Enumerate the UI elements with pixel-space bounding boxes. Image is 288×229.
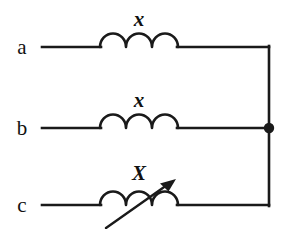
variable-inductor-c-coil (100, 192, 178, 206)
circuit-canvas: a b c x x X (0, 0, 288, 229)
inductor-b (100, 115, 178, 129)
terminal-label-c: c (17, 193, 26, 217)
bus-junction-dot (264, 123, 274, 133)
terminal-label-b: b (17, 116, 28, 140)
circuit-diagram-figure: a b c x x X (0, 0, 288, 229)
inductor-a-coil (100, 34, 178, 48)
inductor-b-label: x (133, 88, 145, 112)
inductor-b-coil (100, 115, 178, 129)
inductor-a-label: x (133, 7, 145, 31)
variable-inductor-c (100, 179, 178, 228)
inductor-a (100, 34, 178, 48)
terminal-label-a: a (17, 35, 27, 59)
variable-inductor-c-label: X (131, 161, 147, 185)
